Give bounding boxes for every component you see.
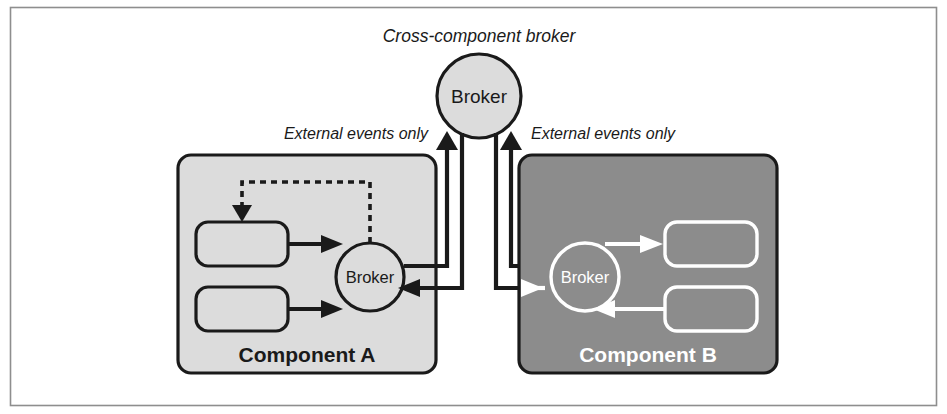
broker-topology-diagram: Cross-component broker Broker External e… bbox=[0, 0, 947, 414]
external-events-right-label: External events only bbox=[531, 125, 676, 142]
component-b-broker-text: Broker bbox=[561, 268, 610, 286]
component-a-node-1 bbox=[196, 222, 288, 266]
component-b-container bbox=[519, 155, 777, 373]
component-a-broker-text: Broker bbox=[346, 268, 395, 286]
cross-component-broker-text: Broker bbox=[451, 86, 508, 107]
cross-component-broker-label: Cross-component broker bbox=[383, 26, 577, 46]
component-a-title: Component A bbox=[239, 343, 376, 366]
figure-root: Cross-component broker Broker External e… bbox=[0, 0, 947, 414]
component-a-node-2 bbox=[196, 287, 288, 331]
external-events-left-label: External events only bbox=[284, 125, 429, 142]
component-b-title: Component B bbox=[579, 343, 717, 366]
